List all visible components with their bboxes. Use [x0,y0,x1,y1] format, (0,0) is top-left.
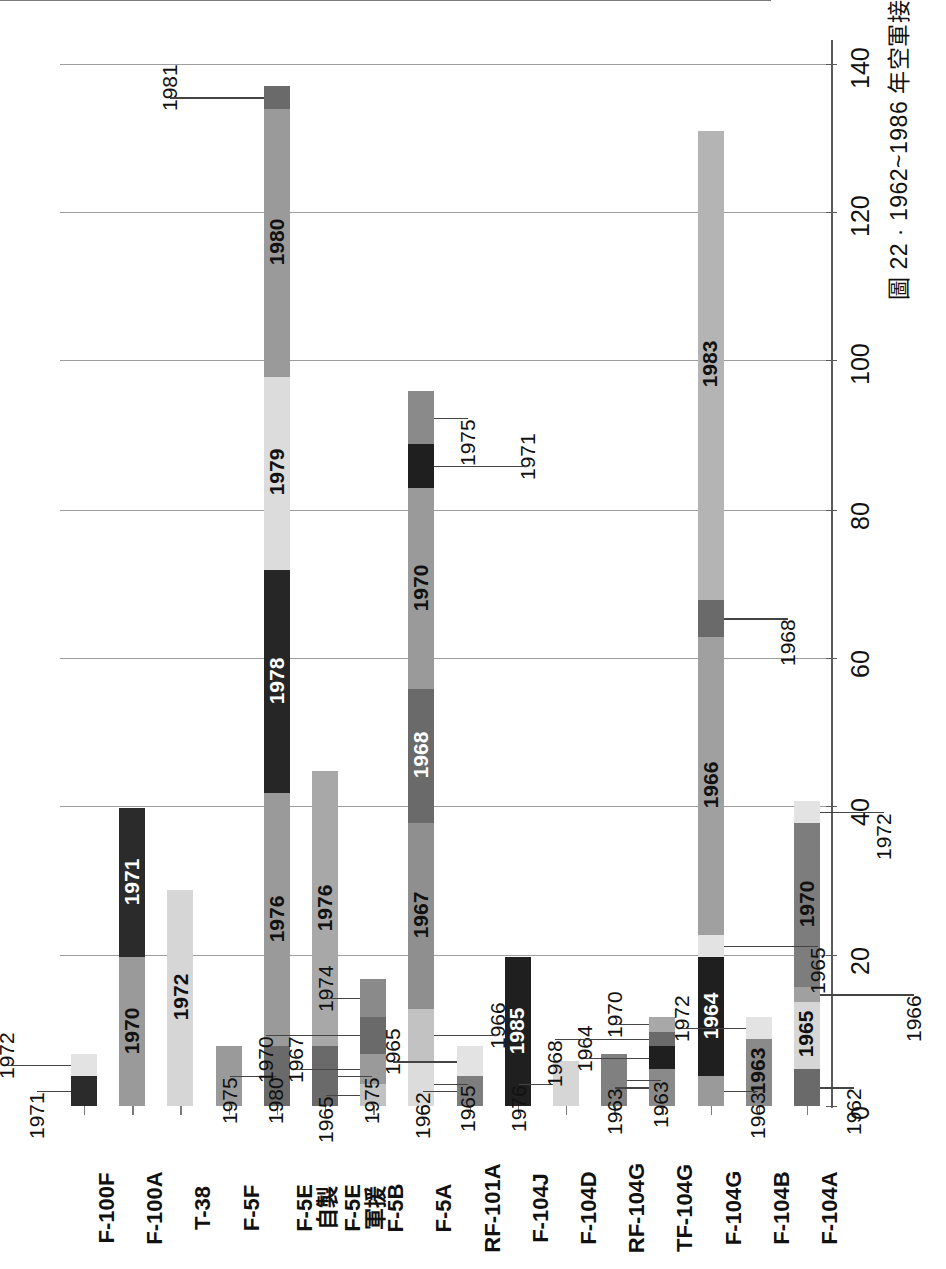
bar-f-100f[interactable] [71,1054,97,1106]
bar-f-100a[interactable]: 19701971 [119,808,145,1106]
segment-year-callout: 1971 [516,433,540,480]
category-label-f-104a: F-104A [818,1128,841,1269]
callout-leader-line [724,1091,758,1092]
value-label-80: 80 [846,460,875,530]
bar-segment[interactable] [457,1046,483,1076]
value-tick-0 [826,1106,837,1107]
value-label-20: 20 [846,905,875,975]
category-label-f-5b: F-5B [384,1128,407,1269]
callout-leader-line [615,1024,649,1025]
category-tick [84,1106,85,1115]
value-tick-120 [826,212,837,213]
bar-t-38[interactable]: 1972 [167,890,193,1106]
segment-year-callout: 1966 [902,996,926,1043]
bar-segment[interactable] [360,979,386,1016]
segment-year-callout: 1972 [0,1032,19,1079]
bar-segment[interactable]: 1976 [264,793,290,1046]
segment-year-callout: 1968 [776,620,800,667]
category-label-line: F-5B [384,1128,407,1269]
value-label-120: 120 [846,167,875,237]
segment-year-callout: 1963 [649,1081,673,1128]
segment-year-label: 1967 [409,822,433,1008]
bar-segment[interactable] [408,391,434,443]
callout-leader-line [37,1091,71,1092]
bar-segment[interactable]: 1964 [698,957,724,1076]
segment-year-callout: 1965 [314,1096,338,1143]
segment-year-label: 1980 [265,108,289,376]
segment-year-callout: 1981 [158,65,182,112]
segment-year-callout: 1962 [842,1089,866,1136]
value-tick-60 [826,658,837,659]
category-label-line: F-5A [432,1128,455,1269]
category-tick [132,1106,133,1115]
category-tick [711,1106,712,1115]
bar-segment[interactable]: 1980 [264,109,290,377]
category-label-f-104j: F-104J [529,1128,552,1269]
value-tick-100 [826,360,837,361]
callout-leader-line [393,1061,457,1062]
bar-f-104g[interactable]: 196419661983 [698,131,724,1106]
bar-segment[interactable]: 1965 [794,1002,820,1069]
bar-segment[interactable] [698,600,724,637]
bar-segment[interactable] [71,1054,97,1076]
bar-segment[interactable] [264,86,290,108]
segment-year-callout: 1976 [507,1085,531,1132]
category-label-line: F-104J [529,1128,552,1269]
callout-leader-line [266,1035,360,1036]
callout-leader-line [820,994,914,995]
value-axis-spine [831,40,833,1108]
category-tick [807,1106,808,1115]
callout-leader-line [434,1084,468,1085]
category-label-f-5e-自製: F-5E自製 [293,1128,340,1269]
segment-year-callout: 1964 [573,1025,597,1072]
segment-year-label: 1970 [409,487,433,688]
value-label-100: 100 [846,315,875,385]
segment-year-callout: 1971 [25,1092,49,1139]
callout-leader-line [326,1095,360,1096]
value-label-60: 60 [846,608,875,678]
bar-segment[interactable]: 1972 [167,890,193,1106]
bar-segment[interactable]: 1967 [408,823,434,1009]
bar-f-5e-自製[interactable]: 1976197819791980 [264,86,290,1106]
bar-segment[interactable]: 1966 [698,637,724,935]
bar-segment[interactable] [649,1046,675,1068]
bar-segment[interactable] [698,1076,724,1106]
category-label-line: F-104G [722,1128,745,1269]
segment-year-label: 1970 [120,956,144,1105]
callout-leader-line [627,1080,661,1081]
segment-year-label: 1972 [168,889,192,1105]
bar-segment[interactable]: 1970 [408,488,434,689]
segment-year-callout: 1968 [543,1040,567,1087]
segment-year-label: 1978 [265,569,289,792]
bar-segment[interactable] [794,1069,820,1106]
bar-segment[interactable]: 1970 [119,957,145,1106]
bar-segment[interactable]: 1971 [119,808,145,957]
segment-year-label: 1983 [699,130,723,599]
value-tick-40 [826,806,837,807]
bar-f-5a[interactable]: 196719681970 [408,391,434,1106]
bar-segment[interactable]: 1968 [408,689,434,823]
segment-year-callout: 1975 [218,1078,242,1125]
bar-segment[interactable]: 1978 [264,570,290,793]
category-label-line: TF-104G [673,1128,696,1269]
category-label-line: F-5F [240,1128,263,1269]
callout-leader-line [585,1058,649,1059]
segment-year-callout: 1975 [456,419,480,466]
bar-segment[interactable] [71,1076,97,1106]
callout-leader-line [326,998,360,999]
bar-segment[interactable] [408,444,434,489]
bar-segment[interactable] [408,1009,434,1061]
bar-f-5e-軍援[interactable]: 1976 [312,771,338,1106]
segment-year-label: 1968 [409,688,433,822]
callout-leader-line [724,618,788,619]
bar-segment[interactable] [794,801,820,823]
bar-segment[interactable]: 1979 [264,377,290,571]
category-label-tf-104g: TF-104G [673,1128,696,1269]
segment-year-label: 1965 [795,1001,819,1068]
bar-segment[interactable]: 1983 [698,131,724,600]
category-tick [566,1106,567,1115]
segment-year-callout: 1965 [381,1029,405,1076]
segment-year-callout: 1972 [670,995,694,1042]
bar-segment[interactable] [746,1017,772,1039]
bar-segment[interactable] [698,935,724,957]
